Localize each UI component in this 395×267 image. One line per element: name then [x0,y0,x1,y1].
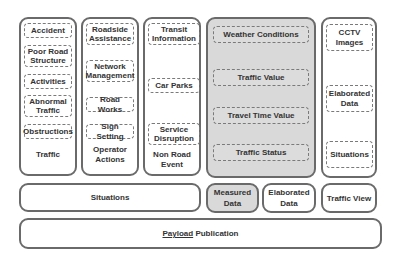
publication-word: Publication [193,228,238,239]
abnormal-traffic-item: Abnormal Traffic [24,95,72,117]
operator-actions-label: Operator Actions [90,145,130,165]
situations-item: Situations [326,141,373,168]
payload-word: Payload [162,228,193,239]
traffic-value-item: Traffic Value [213,69,309,86]
non-road-event-label: Non Road Event [152,150,192,170]
measured-data-box: Measured Data [206,183,259,213]
traffic-view-box: Traffic View [321,183,377,213]
roadside-assistance-item: Roadside Assistance [86,23,134,45]
weather-conditions-item: Weather Conditions [213,26,309,43]
poor-road-structure-item: Poor Road Structure [24,45,72,67]
elaborated-data-box: Elaborated Data [262,183,316,213]
traffic-column: Accident Poor Road Structure Activities … [19,17,77,176]
travel-time-value-item: Travel Time Value [213,107,309,124]
accident-item: Accident [24,23,72,38]
non-road-event-column: Transit Information Car Parks Service Di… [143,17,201,176]
elaborated-data-item: Elaborated Data [326,85,373,112]
traffic-label: Traffic [21,150,75,160]
transit-information-item: Transit Information [148,23,200,45]
sign-setting-item: Sign Setting [86,124,134,139]
activities-item: Activities [24,74,72,89]
cctv-images-item: CCTV Images [326,24,373,51]
operator-actions-column: Roadside Assistance Network Management R… [81,17,139,176]
payload-publication-box: Payload Publication [19,218,382,249]
car-parks-item: Car Parks [148,78,200,93]
obstructions-item: Obstructions [24,124,72,139]
service-disruption-item: Service Disruption [148,123,200,145]
measured-column: Weather Conditions Traffic Value Travel … [206,17,316,178]
traffic-view-column: CCTV Images Elaborated Data Situations [321,17,377,178]
situations-box: Situations [19,183,201,212]
road-works-item: Road Works [86,97,134,112]
network-management-item: Network Management [86,60,134,82]
traffic-status-item: Traffic Status [213,144,309,161]
